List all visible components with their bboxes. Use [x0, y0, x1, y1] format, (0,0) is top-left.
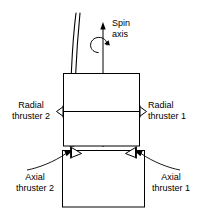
- axial-thruster-2-label: Axial thruster 2: [4, 172, 66, 194]
- axial-thruster-1-label: Axial thruster 1: [140, 172, 202, 194]
- radial-thruster-1-label-line2: thruster 1: [148, 111, 205, 122]
- axial-thruster-1-label-line1: Axial: [140, 172, 202, 183]
- radial-thruster-2-label-line1: Radial: [2, 100, 60, 111]
- radial-thruster-1-label: Radial thruster 1: [148, 100, 205, 122]
- axial-thruster-2-label-line1: Axial: [4, 172, 66, 183]
- spacecraft-thruster-diagram: Spin axis Radial thruster 2 Radial thrus…: [0, 0, 205, 213]
- radial-thruster-1-nozzle-icon: [140, 106, 147, 118]
- rotation-direction-arc-icon: [91, 37, 110, 52]
- radial-thruster-2-label-line2: thruster 2: [2, 111, 60, 122]
- spin-axis-label-line2: axis: [112, 29, 130, 40]
- spin-axis-label: Spin axis: [112, 18, 130, 40]
- spin-axis-label-line1: Spin: [112, 18, 130, 29]
- radial-thruster-2-label: Radial thruster 2: [2, 100, 60, 122]
- axial-thruster-2-label-line2: thruster 2: [4, 183, 66, 194]
- upper-spacecraft-body: [64, 74, 140, 147]
- axial-thruster-1-label-line2: thruster 1: [140, 183, 202, 194]
- lower-spacecraft-body: [63, 151, 145, 208]
- radial-thruster-1-label-line1: Radial: [148, 100, 205, 111]
